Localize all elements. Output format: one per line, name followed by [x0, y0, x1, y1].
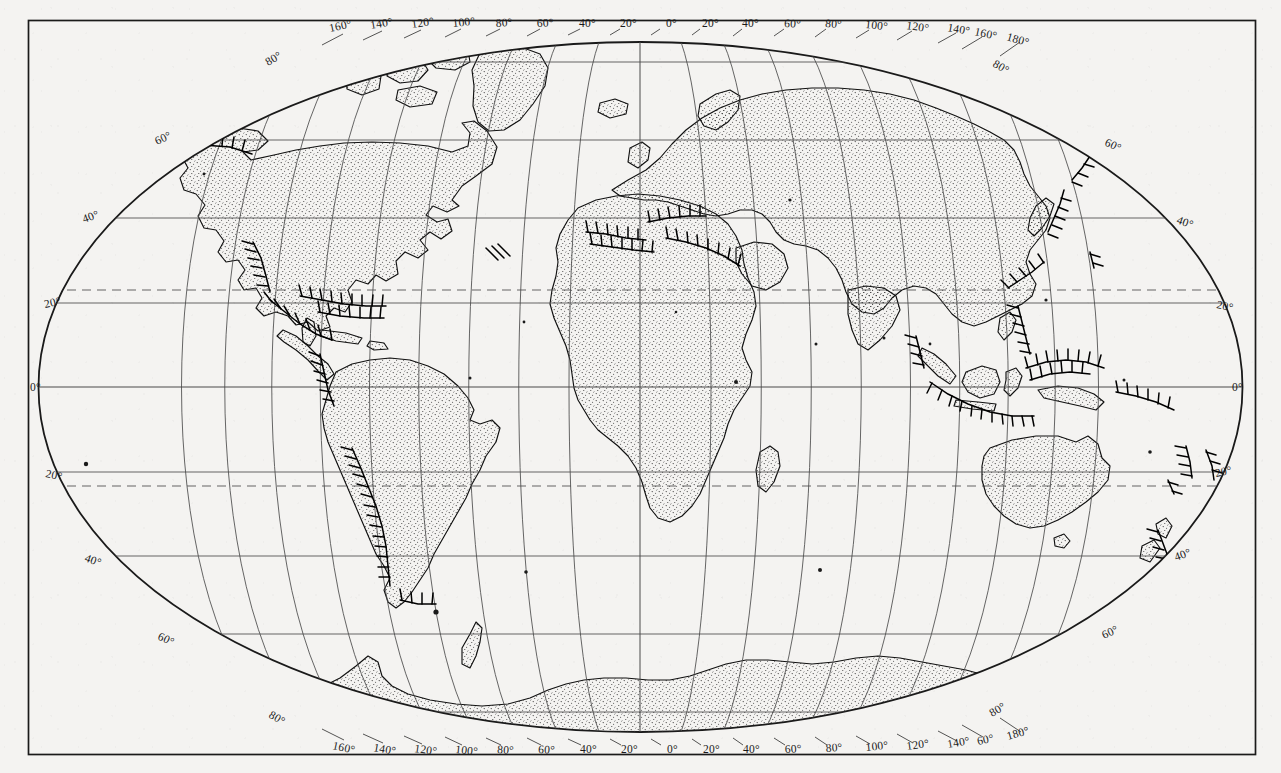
- lonlab-top-16: 160°: [974, 25, 999, 41]
- lonlab-top-7: 20°: [620, 17, 637, 29]
- latlab-left-80N: 80°: [263, 49, 284, 68]
- land-tasmania: [1054, 534, 1070, 548]
- lonlab-bot-15: 140°: [946, 734, 971, 750]
- latlab-right-40S: 40°: [1173, 546, 1193, 563]
- latlab-left-20N: 20°: [43, 295, 62, 310]
- latlab-left-0: 0°: [30, 381, 41, 393]
- landmasses: [60, 45, 1180, 752]
- hachure-banda-moluccas: [1025, 349, 1104, 380]
- lonlab-top-9: 20°: [702, 17, 719, 29]
- land-south-america: [322, 358, 500, 608]
- land-india: [848, 286, 900, 350]
- lonlab-bot-8: 0°: [667, 743, 678, 755]
- latlab-right-80N: 80°: [991, 57, 1012, 76]
- latlab-right-60S: 60°: [1100, 623, 1120, 641]
- land-arctic-islands-1: [387, 56, 428, 83]
- latlab-left-80S: 80°: [267, 708, 288, 727]
- latlab-left-40S: 40°: [83, 552, 103, 569]
- lonlab-top-15: 140°: [947, 21, 972, 37]
- lonlab-bot-10: 40°: [743, 743, 760, 755]
- lonlab-bot-16: 60°: [976, 732, 995, 747]
- lonlab-top-2: 120°: [411, 15, 435, 30]
- latlab-right-60N: 60°: [1103, 136, 1123, 154]
- hachure-mid-atlantic-mark: [486, 244, 510, 260]
- lonlab-top-6: 40°: [579, 17, 596, 29]
- lonlab-top-12: 80°: [825, 17, 843, 30]
- land-sulawesi: [1004, 368, 1022, 396]
- latlab-left-40N: 40°: [81, 208, 101, 225]
- land-north-america: [180, 121, 497, 331]
- lonlab-bot-3: 100°: [455, 743, 479, 757]
- world-map-figure: 160° 140° 120° 100° 80° 60° 40° 20° 0° 2…: [0, 0, 1281, 773]
- hachure-new-guinea-solomon: [1116, 381, 1174, 410]
- latlab-left-60S: 60°: [156, 630, 176, 648]
- lonlab-top-17: 180°: [1005, 30, 1030, 48]
- land-cuba: [320, 330, 362, 344]
- lonlab-bot-13: 100°: [865, 739, 889, 753]
- lonlab-bot-0: 160°: [332, 739, 357, 755]
- land-borneo: [962, 366, 1000, 398]
- land-new-zealand: [1156, 518, 1172, 538]
- lonlab-bot-14: 120°: [906, 737, 930, 752]
- hachure-kuril: [1072, 144, 1100, 186]
- lonlab-top-5: 60°: [536, 16, 554, 29]
- latlab-left-20S: 20°: [45, 467, 64, 482]
- land-new-zealand-south: [1140, 540, 1160, 562]
- hachure-mariana: [1090, 252, 1103, 268]
- lonlab-bot-6: 40°: [580, 743, 597, 755]
- latlab-right-20S: 20°: [1214, 464, 1233, 479]
- latlab-right-80S: 80°: [987, 700, 1008, 719]
- latlab-left-60N: 60°: [153, 129, 173, 147]
- land-antarctic-peninsula: [462, 622, 482, 668]
- land-arctic-islands-3: [346, 70, 381, 95]
- land-arctic-islands-2: [427, 45, 470, 70]
- lonlab-top-13: 100°: [865, 18, 889, 32]
- lonlab-bot-17: 180°: [1005, 724, 1030, 742]
- lonlab-bot-11: 60°: [784, 742, 802, 755]
- lonlab-top-3: 100°: [452, 15, 476, 29]
- lonlab-top-8: 0°: [666, 17, 677, 29]
- world-map-svg: 160° 140° 120° 100° 80° 60° 40° 20° 0° 2…: [0, 0, 1281, 773]
- hachure-japan-trench: [1048, 190, 1071, 238]
- lonlab-top-10: 40°: [742, 17, 759, 29]
- land-arctic-islands-4: [396, 86, 437, 107]
- lonlab-top-4: 80°: [495, 16, 513, 29]
- latlab-right-0: 0°: [1232, 381, 1243, 393]
- lonlab-bot-4: 80°: [497, 743, 515, 756]
- lonlab-bot-9: 20°: [703, 743, 720, 755]
- latlab-right-20N: 20°: [1216, 298, 1235, 313]
- lonlab-bot-7: 20°: [621, 743, 638, 755]
- land-british-isles: [628, 142, 650, 168]
- lonlab-top-1: 140°: [369, 15, 394, 31]
- land-iceland: [598, 99, 628, 118]
- lonlab-top-11: 60°: [784, 17, 802, 30]
- hachure-macquarie: [1168, 480, 1182, 494]
- lonlab-top-14: 120°: [906, 19, 930, 34]
- land-new-guinea: [1038, 386, 1104, 410]
- lonlab-bot-12: 80°: [825, 741, 843, 754]
- lonlab-bot-5: 60°: [538, 743, 556, 756]
- latlab-right-40N: 40°: [1175, 214, 1195, 231]
